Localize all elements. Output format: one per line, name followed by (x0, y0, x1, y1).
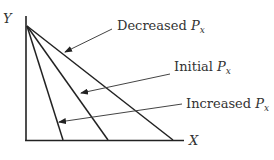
y-axis-label: Y (3, 11, 13, 26)
arrow-decreased (65, 29, 112, 52)
budget-line-decreased (27, 26, 173, 140)
arrow-increased (59, 104, 182, 122)
budget-line-diagram: Y X Decreased Px Initial Px Increased Px (0, 0, 274, 160)
budget-line-increased (27, 26, 63, 140)
x-axis-label: X (188, 133, 199, 148)
label-initial: Initial Px (174, 59, 231, 76)
label-decreased: Decreased Px (117, 18, 205, 35)
arrow-initial (81, 74, 170, 93)
budget-line-initial (27, 26, 108, 140)
label-increased: Increased Px (186, 96, 269, 113)
